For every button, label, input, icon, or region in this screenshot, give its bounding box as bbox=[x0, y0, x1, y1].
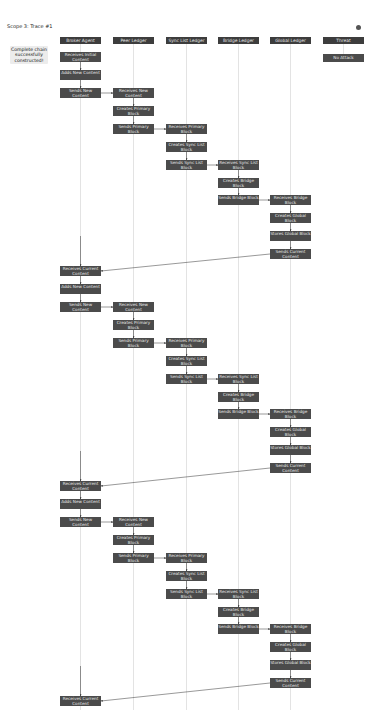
node-peer-create[interactable]: Creates Primary Block bbox=[113, 535, 154, 545]
node-broker-recv[interactable]: Receives Current Content bbox=[60, 266, 101, 276]
node-peer-send[interactable]: Sends Primary Block bbox=[113, 553, 154, 563]
node-bridge-create[interactable]: Creates Bridge Block bbox=[218, 178, 259, 188]
node-sync-recv[interactable]: Receives Primary Block bbox=[166, 553, 207, 563]
node-global-create[interactable]: Creates Global Block bbox=[270, 213, 311, 223]
node-peer-send[interactable]: Sends Primary Block bbox=[113, 338, 154, 348]
node-sync-send[interactable]: Sends Sync List Block bbox=[166, 374, 207, 384]
node-peer-recv[interactable]: Receives New Content bbox=[113, 88, 154, 98]
node-peer-create[interactable]: Creates Primary Block bbox=[113, 106, 154, 116]
node-sync-create[interactable]: Creates Sync List Block bbox=[166, 571, 207, 581]
node-global-recv[interactable]: Receives Bridge Block bbox=[270, 624, 311, 634]
node-global-create[interactable]: Creates Global Block bbox=[270, 427, 311, 437]
node-threat[interactable]: No Attack bbox=[323, 54, 364, 62]
node-global-store[interactable]: Stores Global Block bbox=[270, 445, 311, 455]
node-sync-send[interactable]: Sends Sync List Block bbox=[166, 160, 207, 170]
node-bridge-recv[interactable]: Receives Sync List Block bbox=[218, 160, 259, 170]
node-global-create[interactable]: Creates Global Block bbox=[270, 642, 311, 652]
node-final-receive[interactable]: Receives Current Content bbox=[60, 696, 101, 706]
node-global-send[interactable]: Sends Current Content bbox=[270, 463, 311, 473]
node-peer-recv[interactable]: Receives New Content bbox=[113, 302, 154, 312]
lane-header-global-ledger: Global Ledger bbox=[270, 37, 311, 44]
node-sync-create[interactable]: Creates Sync List Block bbox=[166, 142, 207, 152]
node-bridge-send[interactable]: Sends Bridge Block bbox=[218, 409, 259, 419]
node-broker-recv[interactable]: Receives Current Content bbox=[60, 481, 101, 491]
node-broker-add[interactable]: Adds New Content bbox=[60, 499, 101, 509]
node-sync-send[interactable]: Sends Sync List Block bbox=[166, 589, 207, 599]
node-bridge-create[interactable]: Creates Bridge Block bbox=[218, 607, 259, 617]
node-bridge-recv[interactable]: Receives Sync List Block bbox=[218, 374, 259, 384]
node-bridge-recv[interactable]: Receives Sync List Block bbox=[218, 589, 259, 599]
node-sync-create[interactable]: Creates Sync List Block bbox=[166, 356, 207, 366]
node-broker-send[interactable]: Sends New Content bbox=[60, 88, 101, 98]
node-peer-recv[interactable]: Receives New Content bbox=[113, 517, 154, 527]
lane-header-broker-agent: Broker Agent bbox=[60, 37, 101, 44]
node-global-send[interactable]: Sends Current Content bbox=[270, 249, 311, 259]
node-bridge-send[interactable]: Sends Bridge Block bbox=[218, 624, 259, 634]
node-broker-add[interactable]: Adds New Content bbox=[60, 70, 101, 80]
node-peer-create[interactable]: Creates Primary Block bbox=[113, 320, 154, 330]
node-bridge-create[interactable]: Creates Bridge Block bbox=[218, 392, 259, 402]
node-sync-recv[interactable]: Receives Primary Block bbox=[166, 338, 207, 348]
node-global-store[interactable]: Stores Global Block bbox=[270, 660, 311, 670]
lane-header-sync-list-ledger: Sync List Ledger bbox=[166, 37, 207, 44]
lane-header-peer-ledger: Peer Ledger bbox=[113, 37, 154, 44]
node-global-recv[interactable]: Receives Bridge Block bbox=[270, 195, 311, 205]
node-broker-first[interactable]: Receives Initial Content bbox=[60, 52, 101, 62]
node-global-store[interactable]: Stores Global Block bbox=[270, 231, 311, 241]
node-broker-add[interactable]: Adds New Content bbox=[60, 284, 101, 294]
node-broker-send[interactable]: Sends New Content bbox=[60, 517, 101, 527]
lane-header-bridge-ledger: Bridge Ledger bbox=[218, 37, 259, 44]
node-broker-send[interactable]: Sends New Content bbox=[60, 302, 101, 312]
node-peer-send[interactable]: Sends Primary Block bbox=[113, 124, 154, 134]
lane-header-threat: Threat bbox=[323, 37, 364, 44]
node-global-recv[interactable]: Receives Bridge Block bbox=[270, 409, 311, 419]
node-sync-recv[interactable]: Receives Primary Block bbox=[166, 124, 207, 134]
node-global-send[interactable]: Sends Current Content bbox=[270, 678, 311, 688]
node-bridge-send[interactable]: Sends Bridge Block bbox=[218, 195, 259, 205]
